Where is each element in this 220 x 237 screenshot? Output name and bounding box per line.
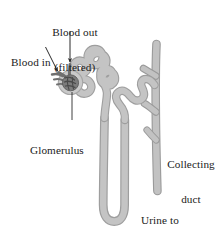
collecting-duct-shape (144, 44, 158, 191)
label-glomerulus: Glomerulus (30, 122, 114, 180)
label-blood-in-text: Blood in (11, 57, 71, 69)
label-urine-line1: Urine to (124, 215, 196, 227)
label-urine-to-ureter: Urine to ureter (124, 192, 196, 237)
label-blood-in: Blood in (11, 34, 71, 92)
nephron-diagram-figure: Blood out (filtered) Blood in Glomerulus… (0, 0, 220, 237)
label-glomerulus-text: Glomerulus (30, 145, 114, 157)
label-collecting-duct-line1: Collecting (163, 159, 219, 171)
distal-convoluted-tubule-shape (116, 79, 154, 120)
